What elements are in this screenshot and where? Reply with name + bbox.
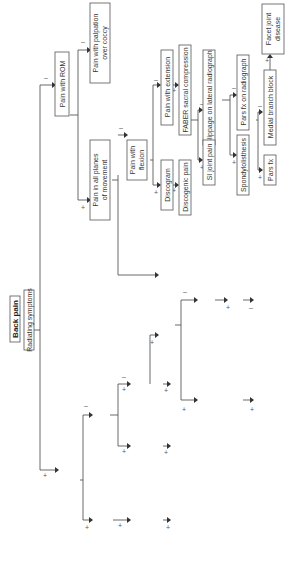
svg-text:flexion: flexion — [138, 150, 145, 170]
node-pars-fx: Pars fx — [264, 155, 276, 185]
svg-text:+: + — [265, 57, 269, 64]
svg-text:–: – — [249, 304, 253, 311]
node-back-pain: Back pain — [10, 296, 20, 342]
svg-text:Pars fx: Pars fx — [267, 159, 274, 181]
node-radiating-symptoms: Radiating symptoms — [24, 288, 34, 352]
node-pain-palpation: Pain with palpation over coccy — [90, 3, 110, 83]
svg-text:Spondylolisthesis: Spondylolisthesis — [240, 137, 248, 192]
svg-text:+: + — [154, 189, 158, 196]
node-pars-radiograph: Pars fx on radiograph — [237, 55, 249, 130]
svg-text:+: + — [150, 339, 154, 346]
svg-text:over coccy: over coccy — [101, 26, 109, 60]
svg-text:+: + — [122, 448, 126, 455]
svg-text:+: + — [164, 387, 168, 394]
svg-text:Pars fx on radiograph: Pars fx on radiograph — [240, 58, 248, 125]
node-slippage: Slippage on lateral radiograph — [203, 50, 215, 145]
svg-text:Discogram: Discogram — [164, 168, 172, 202]
svg-text:–: – — [81, 38, 85, 45]
svg-text:–: – — [258, 102, 262, 109]
node-si-joint-pain: SI joint pain — [203, 140, 215, 185]
svg-text:+: + — [43, 472, 47, 479]
svg-text:disease: disease — [274, 17, 281, 41]
svg-text:Facet joint: Facet joint — [265, 13, 273, 45]
svg-text:–: – — [154, 76, 158, 83]
svg-text:–: – — [183, 288, 187, 295]
svg-text:+: + — [226, 304, 230, 311]
svg-text:+: + — [122, 386, 126, 393]
node-facet-joint-disease: Facet joint disease — [262, 4, 284, 54]
svg-text:+: + — [258, 174, 262, 181]
svg-text:–: – — [122, 373, 126, 380]
svg-text:–: – — [44, 74, 48, 81]
svg-text:Pain with: Pain with — [129, 146, 136, 175]
svg-text:–: – — [84, 402, 88, 409]
svg-text:Pain with extension: Pain with extension — [164, 57, 171, 117]
branch-signs: – + – + + – – + + + – + – + – + + – + + … — [43, 30, 269, 531]
svg-text:Pain in all planes: Pain in all planes — [92, 153, 100, 206]
svg-text:+: + — [164, 449, 168, 456]
node-medial-branch-block: Medial branch block — [264, 70, 276, 145]
svg-text:Pain with ROM: Pain with ROM — [59, 60, 66, 107]
svg-text:FABER sacral compression: FABER sacral compression — [182, 47, 190, 132]
back-pain-flowchart: – + – + + – – + + + – + – + – + + – + + … — [0, 0, 285, 587]
svg-text:+: + — [250, 406, 254, 413]
svg-text:+: + — [85, 524, 89, 531]
svg-text:+: + — [118, 522, 122, 529]
svg-text:Slippage on lateral radiograph: Slippage on lateral radiograph — [206, 50, 214, 144]
node-discogenic-pain: Discogenic pain — [179, 160, 191, 215]
svg-text:Radiating symptoms: Radiating symptoms — [26, 288, 34, 352]
node-pain-with-rom: Pain with ROM — [55, 52, 69, 116]
svg-text:–: – — [119, 124, 123, 131]
svg-text:+: + — [232, 159, 236, 166]
node-spondylolisthesis: Spondylolisthesis — [237, 135, 249, 195]
svg-text:Discogenic pain: Discogenic pain — [182, 162, 190, 212]
node-pain-flexion: Pain with flexion — [127, 140, 147, 180]
svg-text:+: + — [81, 204, 85, 211]
svg-text:–: – — [232, 84, 236, 91]
svg-text:Pain with palpation: Pain with palpation — [92, 14, 100, 73]
node-pain-extension: Pain with extension — [161, 50, 173, 125]
svg-text:SI joint pain: SI joint pain — [206, 144, 214, 181]
svg-text:Medial branch block: Medial branch block — [267, 75, 274, 138]
svg-text:of movement: of movement — [101, 160, 108, 201]
node-faber: FABER sacral compression — [179, 45, 191, 135]
svg-text:Back pain: Back pain — [11, 300, 20, 338]
svg-text:+: + — [182, 406, 186, 413]
svg-text:+: + — [166, 524, 170, 531]
node-discogram: Discogram — [161, 160, 173, 210]
node-pain-all-planes: Pain in all planes of movement — [90, 140, 110, 220]
